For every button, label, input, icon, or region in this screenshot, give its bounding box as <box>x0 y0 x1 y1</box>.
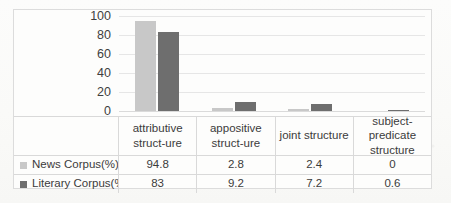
category-label-line: joint structure <box>280 129 349 142</box>
bar-news[interactable] <box>288 109 309 111</box>
table-row-categories: attributivestruct-ure appositivestruct-u… <box>14 116 431 155</box>
data-table: attributivestruct-ure appositivestruct-u… <box>14 116 431 188</box>
category-label-line: struct-ure <box>212 137 261 150</box>
category-header-cell: subject-predicatestructure <box>354 117 431 155</box>
category-header-cell: appositivestruct-ure <box>197 117 275 155</box>
data-cell: 2.4 <box>276 156 354 174</box>
chart-frame: 100 80 60 40 20 0 attributivestruct-ure … <box>13 9 432 189</box>
category-label-2: joint structure <box>280 129 349 142</box>
plot-area: 100 80 60 40 20 0 <box>14 10 431 116</box>
bar-group <box>349 110 426 111</box>
legend-swatch-icon <box>20 181 27 188</box>
y-axis: 100 80 60 40 20 0 <box>14 10 119 116</box>
bar-literary[interactable] <box>235 102 256 111</box>
data-cell: 94.8 <box>119 156 197 174</box>
category-label-line: appositive <box>210 122 262 135</box>
category-label-0: attributivestruct-ure <box>133 122 183 149</box>
legend-item-news: News Corpus(%) <box>14 156 119 174</box>
data-cell: 2.8 <box>197 156 275 174</box>
bar-group <box>272 104 349 111</box>
category-label-3: subject-predicatestructure <box>369 117 416 155</box>
table-row: Literary Corpus(%) 83 9.2 7.2 0.6 <box>14 174 431 193</box>
bar-literary[interactable] <box>158 32 179 111</box>
data-cell: 0 <box>354 156 431 174</box>
y-axis-tick: 20 <box>97 86 111 99</box>
bar-news[interactable] <box>135 21 156 111</box>
bar-group <box>119 21 196 111</box>
legend-label: Literary Corpus(%) <box>32 177 119 190</box>
y-axis-tick: 60 <box>97 48 111 61</box>
bar-group <box>196 102 273 111</box>
category-label-line: struct-ure <box>133 137 182 150</box>
bar-news[interactable] <box>212 108 233 111</box>
category-header-cell: attributivestruct-ure <box>119 117 197 155</box>
category-label-line: attributive <box>133 122 183 135</box>
data-cell: 0.6 <box>354 175 431 193</box>
bar-series-container <box>119 10 425 111</box>
category-label-line: structure <box>370 144 415 155</box>
category-label-line: predicate <box>369 129 416 142</box>
category-label-line: subject- <box>372 117 412 128</box>
data-cell: 83 <box>119 175 197 193</box>
bar-literary[interactable] <box>388 110 409 111</box>
table-row: News Corpus(%) 94.8 2.8 2.4 0 <box>14 155 431 174</box>
y-axis-tick: 100 <box>90 10 111 23</box>
y-axis-tick: 40 <box>97 67 111 80</box>
data-cell: 9.2 <box>197 175 275 193</box>
legend-label: News Corpus(%) <box>32 158 119 171</box>
category-label-1: appositivestruct-ure <box>210 122 262 149</box>
legend-swatch-icon <box>20 162 27 169</box>
legend-item-literary: Literary Corpus(%) <box>14 175 119 193</box>
category-header-cell: joint structure <box>276 117 354 155</box>
gridline-baseline <box>119 111 425 112</box>
data-cell: 7.2 <box>276 175 354 193</box>
table-corner-cell <box>14 117 119 155</box>
bar-literary[interactable] <box>311 104 332 111</box>
y-axis-tick: 80 <box>97 29 111 42</box>
